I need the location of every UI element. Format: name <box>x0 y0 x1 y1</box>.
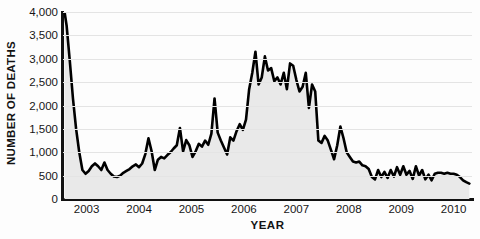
y-tick-label: 4,000 <box>29 6 58 18</box>
gridline <box>63 152 472 153</box>
y-tick-label: 3,000 <box>29 53 58 65</box>
gridline <box>63 106 472 107</box>
gridline <box>63 12 472 13</box>
x-tick-label: 2010 <box>441 203 467 215</box>
y-tick-label: 1,500 <box>29 123 58 135</box>
x-tick-label: 2008 <box>336 203 362 215</box>
y-tick-label: 1,000 <box>29 146 58 158</box>
x-tick-label: 2009 <box>388 203 414 215</box>
x-tick-label: 2004 <box>126 203 152 215</box>
gridline <box>63 35 472 36</box>
y-tick-label: 2,000 <box>29 100 58 112</box>
gridline <box>63 59 472 60</box>
gridline <box>63 176 472 177</box>
x-tick-label: 2007 <box>284 203 310 215</box>
y-tick-label: 0 <box>52 193 58 205</box>
x-tick-label: 2005 <box>179 203 205 215</box>
y-tick-label: 3,500 <box>29 29 58 41</box>
gridline <box>63 82 472 83</box>
x-tick-label: 2003 <box>74 203 100 215</box>
gridline <box>63 129 472 130</box>
y-axis-title-text: NUMBER OF DEATHS <box>5 40 17 164</box>
y-axis-tick-labels: 05001,0001,5002,0002,5003,0003,5004,000 <box>18 0 58 239</box>
deaths-by-year-line-chart: NUMBER OF DEATHS 05001,0001,5002,0002,50… <box>0 0 480 239</box>
plot-area <box>63 12 472 199</box>
x-axis-title: YEAR <box>63 219 472 231</box>
y-tick-label: 2,500 <box>29 76 58 88</box>
y-tick-label: 500 <box>39 170 58 182</box>
x-tick-label: 2006 <box>231 203 257 215</box>
x-axis-tick-labels: 20032004200520062007200820092010 <box>63 203 472 219</box>
